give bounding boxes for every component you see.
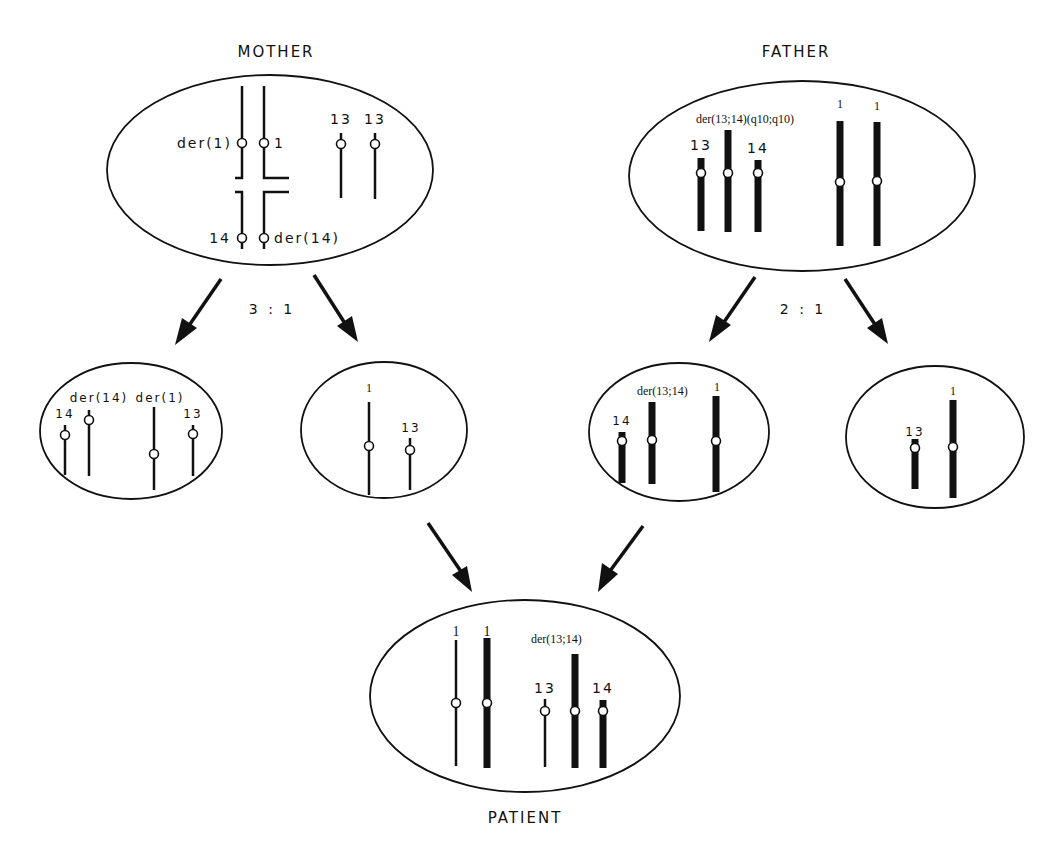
svg-text:der(14): der(14) [70, 391, 129, 405]
father-cell-outline [629, 81, 975, 271]
centromere-icon [541, 707, 550, 716]
svg-text:1: 1 [453, 624, 460, 639]
gamete-chr14-chromosome: 14 [612, 414, 631, 483]
father-der1314-label: der(13;14)(q10;q10) [696, 112, 794, 126]
centromere-icon [873, 177, 882, 186]
mother-der14-chromosome: der(14) [260, 192, 341, 249]
gamete-outline [301, 362, 467, 498]
centromere-icon [238, 139, 247, 148]
gamete-der14-chromosome: der(14) [70, 391, 129, 476]
svg-text:der(1): der(1) [177, 135, 232, 151]
father-der1314-chromosome [724, 130, 733, 232]
svg-text:der(14): der(14) [274, 230, 340, 246]
mother-gamete-1: 14 der(14) der(1) 13 [40, 363, 222, 499]
gamete-der1314-chromosome [648, 402, 657, 484]
patient-chr1a-chromosome: 1 [452, 624, 461, 766]
mother-ratio-label: 3 : 1 [249, 301, 295, 317]
svg-text:1: 1 [274, 135, 285, 151]
svg-text:14: 14 [612, 414, 631, 428]
patient-chr13-chromosome: 13 [534, 680, 556, 767]
father-cell: FATHER der(13;14)(q10;q10) 13 14 1 1 [629, 43, 975, 271]
centromere-icon [949, 443, 958, 452]
father-chr1a-chromosome: 1 [836, 97, 845, 246]
patient-chr14-chromosome: 14 [592, 680, 614, 768]
centromere-icon [599, 707, 608, 716]
centromere-icon [61, 431, 70, 440]
svg-text:13: 13 [183, 407, 202, 421]
patient-cell-outline [370, 600, 680, 792]
gamete-der1-chromosome: der(1) [136, 391, 185, 490]
mother-chr14-chromosome: 14 [209, 192, 246, 249]
svg-text:13: 13 [330, 111, 352, 127]
svg-text:1: 1 [837, 97, 843, 111]
arrow-down-left-icon [598, 563, 618, 592]
mother-title: MOTHER [237, 43, 314, 61]
svg-text:13: 13 [905, 425, 924, 439]
gamete-chr13-chromosome: 13 [905, 425, 924, 489]
svg-text:14: 14 [55, 407, 74, 421]
father-chr13-chromosome: 13 [690, 137, 712, 231]
arrow-down-right-icon [452, 566, 472, 592]
gamete-chr1-chromosome: 1 [365, 381, 374, 495]
centromere-icon [697, 169, 706, 178]
centromere-icon [406, 446, 415, 455]
father-title: FATHER [762, 43, 831, 61]
centromere-icon [724, 169, 733, 178]
patient-title: PATIENT [488, 809, 563, 827]
centromere-icon [189, 430, 198, 439]
centromere-icon [754, 169, 763, 178]
centromere-icon [337, 140, 346, 149]
patient-der1314-label: der(13;14) [531, 632, 582, 646]
svg-text:13: 13 [534, 680, 556, 696]
gamete-chr13-chromosome: 13 [183, 407, 202, 476]
centromere-icon [483, 699, 492, 708]
svg-text:14: 14 [747, 140, 769, 156]
father-chr1b-chromosome: 1 [873, 99, 882, 246]
mother-der1-chromosome: der(1) [177, 86, 247, 178]
gamete-chr14-chromosome: 14 [55, 407, 74, 475]
gamete-der1314-label: der(13;14) [637, 384, 688, 398]
svg-text:1: 1 [714, 380, 720, 394]
centromere-icon [911, 444, 920, 453]
svg-text:13: 13 [401, 421, 420, 435]
patient-chr1b-chromosome: 1 [483, 624, 492, 768]
gamete-chr1-chromosome: 1 [712, 380, 721, 492]
svg-text:1: 1 [366, 381, 372, 395]
mother-chr13b-chromosome: 13 [364, 111, 386, 199]
gamete-chr1-chromosome: 1 [949, 384, 958, 498]
centromere-icon [150, 450, 159, 459]
centromere-icon [260, 139, 269, 148]
mother-chr13a-chromosome: 13 [330, 111, 352, 198]
arrow-down-right-icon [867, 318, 888, 344]
svg-text:1: 1 [874, 99, 880, 113]
gamete-chr13-chromosome: 13 [401, 421, 420, 490]
centromere-icon [618, 437, 627, 446]
centromere-icon [648, 436, 657, 445]
centromere-icon [365, 442, 374, 451]
mother-segregation-arrows: 3 : 1 [175, 275, 358, 345]
patient-cell: 1 1 der(13;14) 13 14 PATIENT [370, 600, 680, 827]
mother-cell: MOTHER der(1) 1 14 der(14) 13 [107, 43, 433, 265]
svg-text:14: 14 [209, 230, 231, 246]
gamete-outline [846, 366, 1024, 508]
father-chr14-chromosome: 14 [747, 140, 769, 232]
svg-text:der(1): der(1) [136, 391, 185, 405]
father-ratio-label: 2 : 1 [780, 301, 826, 317]
centromere-icon [260, 234, 269, 243]
mother-gamete-2: 1 13 [301, 362, 467, 498]
svg-text:1: 1 [484, 624, 491, 639]
centromere-icon [371, 140, 380, 149]
centromere-icon [712, 437, 721, 446]
svg-text:13: 13 [690, 137, 712, 153]
patient-der1314-chromosome [571, 654, 580, 768]
centromere-icon [571, 707, 580, 716]
arrow-down-left-icon [175, 318, 197, 345]
centromere-icon [836, 178, 845, 187]
svg-text:14: 14 [592, 680, 614, 696]
fertilization-arrows [428, 523, 643, 592]
mother-cell-outline [107, 75, 433, 265]
father-segregation-arrows: 2 : 1 [709, 277, 888, 344]
centromere-icon [452, 699, 461, 708]
karyotype-diagram: MOTHER der(1) 1 14 der(14) 13 [0, 0, 1057, 852]
arrow-down-right-icon [337, 316, 358, 342]
